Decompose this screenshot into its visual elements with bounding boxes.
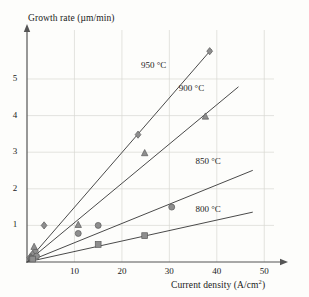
x-axis-arrowhead — [280, 259, 288, 265]
y-tick-label: 3 — [6, 146, 24, 156]
series-label-850c: 850 °C — [195, 156, 220, 166]
x-tick-label: 50 — [255, 266, 273, 276]
data-point-850c — [169, 204, 175, 210]
trendline-800c — [27, 212, 252, 262]
chart-plot-area — [0, 0, 309, 297]
data-point-950c — [41, 222, 47, 229]
y-tick-label: 4 — [6, 110, 24, 120]
data-point-850c — [75, 230, 81, 236]
x-tick-label: 10 — [65, 266, 83, 276]
data-point-800c — [95, 242, 101, 248]
x-tick-label: 40 — [208, 266, 226, 276]
data-point-850c — [95, 222, 101, 228]
chart-figure: Growth rate (µm/min) Current density (A/… — [0, 0, 309, 297]
series-label-800c: 800 °C — [195, 204, 220, 214]
data-point-800c — [30, 256, 36, 262]
data-point-800c — [142, 233, 148, 239]
x-tick-label: 20 — [113, 266, 131, 276]
x-axis-title-base: Current density (A/cm — [171, 280, 259, 290]
trendline-950c — [27, 50, 211, 262]
data-point-900c — [31, 243, 37, 249]
trendline-850c — [27, 171, 252, 263]
x-tick-label: 30 — [160, 266, 178, 276]
x-axis-title: Current density (A/cm2) — [171, 278, 265, 290]
y-axis-arrowhead — [24, 24, 30, 32]
series-label-950c: 950 °C — [141, 60, 166, 70]
y-axis-title: Growth rate (µm/min) — [28, 13, 115, 23]
data-point-900c — [141, 150, 147, 156]
series-label-900c: 900 °C — [179, 83, 204, 93]
y-tick-label: 5 — [6, 73, 24, 83]
data-point-900c — [75, 221, 81, 227]
y-tick-label: 1 — [6, 219, 24, 229]
y-tick-label: 2 — [6, 183, 24, 193]
x-axis-title-close: ) — [262, 280, 265, 290]
trendline-900c — [27, 87, 238, 262]
